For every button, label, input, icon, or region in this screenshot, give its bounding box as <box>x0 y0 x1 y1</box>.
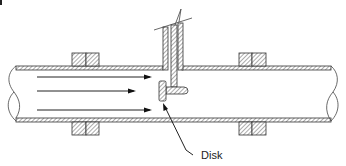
corner-mark <box>0 0 2 5</box>
flow-arrows <box>37 75 152 113</box>
flange-downstream <box>239 53 266 135</box>
arrowhead-middle <box>128 89 136 94</box>
disk-flowmeter-diagram: Disk <box>0 0 346 166</box>
pipe-break-left <box>8 66 19 121</box>
arrowhead-top <box>144 75 152 80</box>
flange-upstream <box>72 53 99 135</box>
arrowhead-bottom <box>144 108 152 113</box>
callout-arrowhead <box>163 103 168 111</box>
stem-rod <box>171 25 177 87</box>
disk-label: Disk <box>201 149 223 161</box>
disk-arm <box>166 87 188 94</box>
disk-callout: Disk <box>163 103 223 161</box>
disk <box>159 81 166 101</box>
pipe-bottom-wall <box>16 118 331 122</box>
pipe-break-right <box>327 66 338 121</box>
